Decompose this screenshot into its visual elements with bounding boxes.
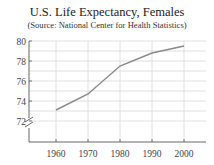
x-tick-label: 1990 [143,149,162,159]
y-tick-label: 76 [17,77,27,87]
axis-break-mark [25,122,33,127]
x-tick-label: 1980 [111,149,130,159]
y-tick-label: 80 [17,37,27,47]
x-tick-label: 1970 [79,149,98,159]
line-chart: 727476788019601970198019902000 [0,0,214,165]
y-tick-label: 78 [17,57,27,67]
y-tick-label: 72 [17,117,27,127]
x-tick-label: 1960 [47,149,66,159]
x-tick-label: 2000 [175,149,194,159]
y-tick-label: 74 [17,97,27,107]
